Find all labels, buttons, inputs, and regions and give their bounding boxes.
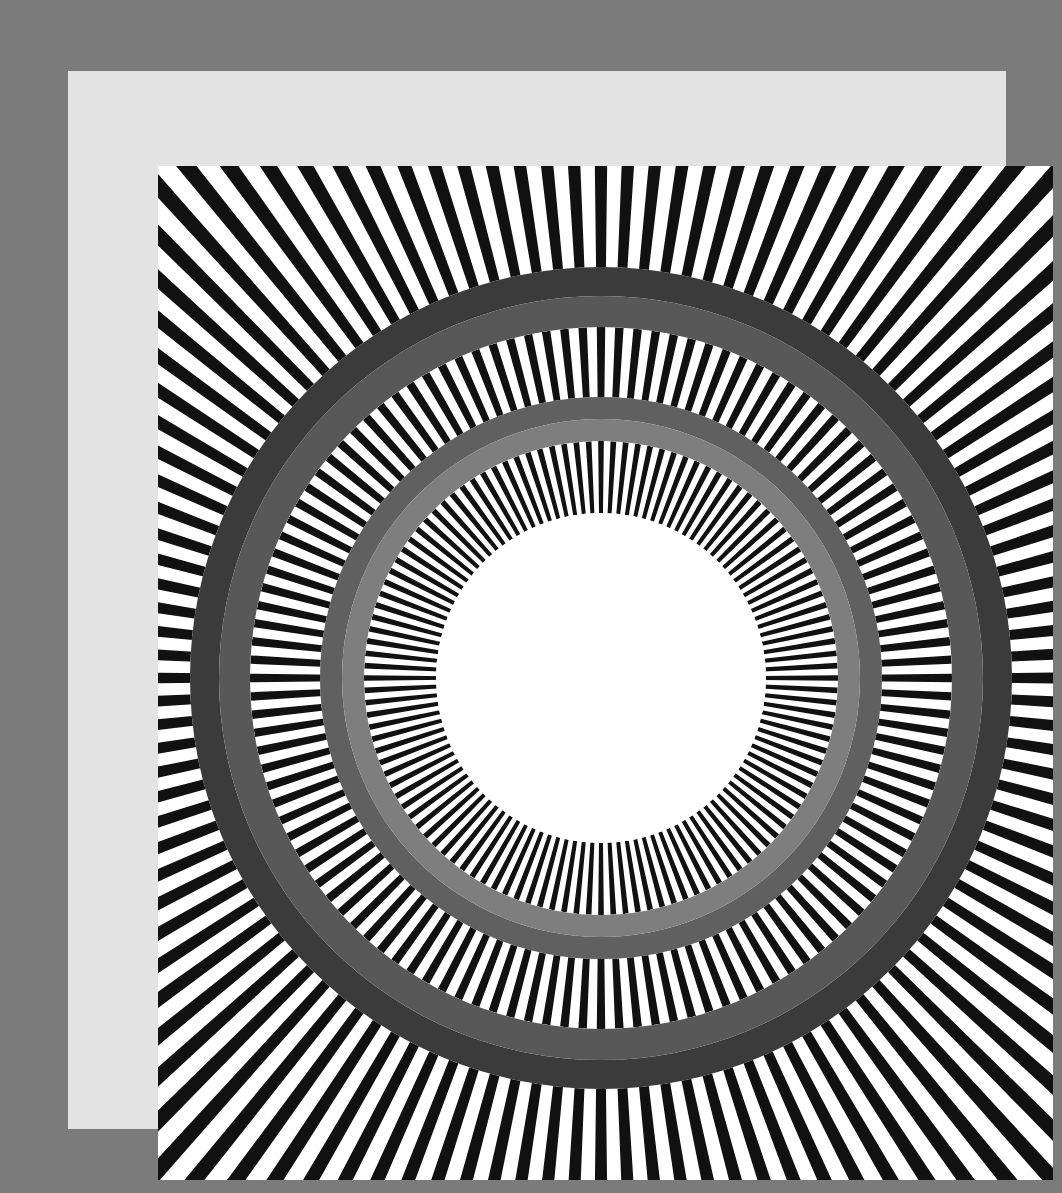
artwork-canvas [158, 166, 1053, 1180]
radial-op-art [158, 166, 1053, 1180]
artwork-mat [68, 71, 1006, 1129]
center-disc [436, 513, 766, 843]
